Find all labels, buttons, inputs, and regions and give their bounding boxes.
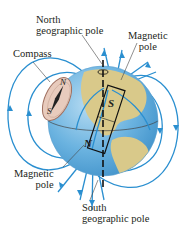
- magnet-north-letter: N: [84, 138, 92, 149]
- label-north-geo-line1: North: [36, 14, 103, 25]
- magnet-south-letter: S: [108, 98, 114, 109]
- compass-north-letter: N: [60, 77, 66, 88]
- label-mag-top-line2: pole: [128, 41, 168, 52]
- label-magnetic-pole-bottom: Magnetic pole: [14, 168, 54, 190]
- label-north-geo-line2: geographic pole: [36, 25, 103, 36]
- label-compass: Compass: [13, 48, 52, 59]
- label-mag-top-line1: Magnetic: [128, 30, 168, 41]
- label-magnetic-pole-top: Magnetic pole: [128, 30, 168, 52]
- earth-magnetic-field-diagram: S N N S North geographic pole Magnetic p…: [0, 0, 187, 230]
- label-south-geo-line1: South: [82, 202, 149, 213]
- label-south-geographic-pole: South geographic pole: [82, 202, 149, 224]
- label-south-geo-line2: geographic pole: [82, 213, 149, 224]
- label-north-geographic-pole: North geographic pole: [36, 14, 103, 36]
- compass-south-letter: S: [47, 106, 52, 117]
- label-mag-bottom-line1: Magnetic: [14, 168, 54, 179]
- label-mag-bottom-line2: pole: [14, 179, 54, 190]
